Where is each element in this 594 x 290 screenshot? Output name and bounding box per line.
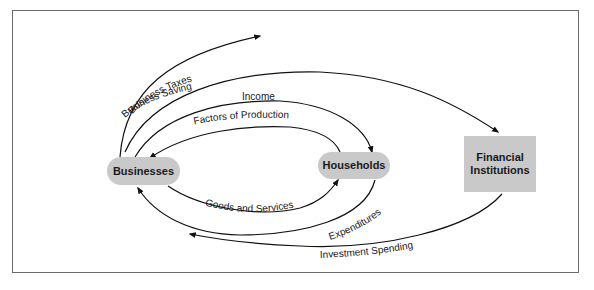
node-financial-institutions-label: Financial Institutions xyxy=(470,151,530,177)
flow-investment-arrow xyxy=(190,194,502,247)
label-expenditures: Expenditures xyxy=(327,206,383,242)
node-financial-institutions: Financial Institutions xyxy=(464,136,536,192)
flow-factors-arrow xyxy=(150,127,340,158)
label-factors: Factors of Production xyxy=(192,109,289,127)
node-businesses-label: Businesses xyxy=(113,165,174,178)
label-goods: Goods and Services xyxy=(204,197,294,214)
node-businesses: Businesses xyxy=(107,157,180,185)
label-income: Income xyxy=(242,91,275,102)
node-households: Households xyxy=(318,152,390,179)
label-investment: Investment Spending xyxy=(320,239,414,260)
node-households-label: Households xyxy=(323,159,386,172)
